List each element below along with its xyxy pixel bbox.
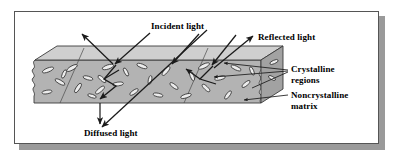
label-crystalline-regions-line1: Crystalline (291, 64, 335, 75)
label-noncrystalline-matrix-line2: matrix (291, 101, 348, 112)
label-crystalline-regions: Crystalline regions (291, 64, 335, 85)
label-reflected-light: Reflected light (258, 32, 315, 43)
label-crystalline-regions-line2: regions (291, 75, 335, 86)
slab-top-face (35, 46, 283, 60)
figure-root: Incident light Reflected light Crystalli… (0, 0, 399, 162)
label-noncrystalline-matrix-line1: Noncrystalline (291, 90, 348, 101)
label-noncrystalline-matrix: Noncrystalline matrix (291, 90, 348, 111)
label-incident-light: Incident light (151, 21, 204, 32)
label-diffused-light: Diffused light (84, 128, 138, 139)
